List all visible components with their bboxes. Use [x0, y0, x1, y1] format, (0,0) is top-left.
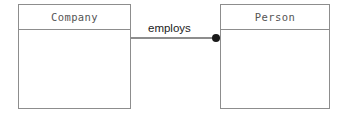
association-label-employs: employs [148, 22, 191, 35]
class-box-person[interactable]: Person [220, 4, 330, 109]
class-attributes-compartment [19, 30, 130, 108]
association-line-employs[interactable] [130, 37, 220, 39]
class-name-label: Company [51, 11, 98, 23]
class-name-compartment: Person [221, 5, 329, 30]
association-end-filled-circle-icon [212, 34, 220, 42]
class-name-compartment: Company [19, 5, 130, 30]
class-attributes-compartment [221, 30, 329, 108]
uml-class-diagram-canvas: Company employs Person [0, 0, 347, 118]
class-name-label: Person [255, 11, 295, 23]
class-box-company[interactable]: Company [18, 4, 131, 109]
